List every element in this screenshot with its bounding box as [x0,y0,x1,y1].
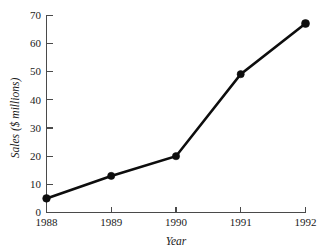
y-axis-title: Sales ($ millions) [9,78,22,159]
x-tick-label: 1988 [36,216,59,228]
x-tick-label: 1991 [230,216,252,228]
chart-background [0,0,322,251]
y-tick-label: 70 [30,9,42,21]
y-tick-label: 50 [30,65,42,77]
data-point-marker [108,172,115,179]
y-tick-label: 20 [30,150,42,162]
y-tick-label: 60 [30,37,42,49]
line-chart: 0 10 20 30 40 50 60 70 1988 1989 1990 19… [0,0,322,251]
x-tick-label: 1990 [165,216,188,228]
data-point-marker [43,195,51,203]
chart-figure: 0 10 20 30 40 50 60 70 1988 1989 1990 19… [0,0,322,251]
y-tick-label: 30 [30,122,42,134]
y-tick-label: 10 [30,178,42,190]
data-point-marker [172,153,179,160]
y-tick-label: 40 [30,94,42,106]
x-tick-label: 1989 [100,216,123,228]
data-point-marker [237,71,244,78]
data-point-marker [302,20,310,28]
x-tick-label: 1992 [295,216,317,228]
x-axis-title: Year [166,235,187,247]
